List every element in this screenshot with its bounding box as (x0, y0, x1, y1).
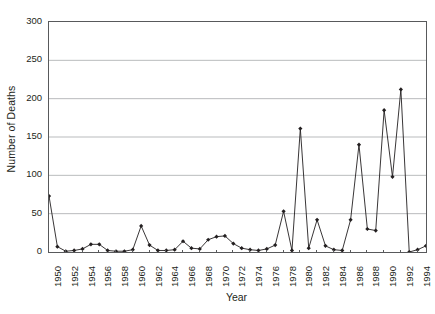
x-axis-tick-label: 1950 (52, 253, 64, 287)
x-axis-tick-mark (299, 250, 300, 253)
y-axis-tick-label: 200 (16, 93, 42, 103)
x-axis-tick-mark (48, 250, 49, 253)
x-axis-tick-label: 1990 (387, 253, 399, 287)
x-axis-tick-mark (216, 250, 217, 253)
x-axis-tick-labels: 1950195219541956195819601962196419661968… (48, 253, 427, 293)
data-point-marker (55, 245, 59, 249)
y-axis-tick-label: 0 (16, 246, 42, 256)
x-axis-tick-mark (82, 250, 83, 253)
x-axis-tick-label: 1994 (421, 253, 433, 287)
x-axis-tick-label: 1956 (102, 253, 114, 287)
x-axis-tick-mark (366, 250, 367, 253)
data-point-marker (298, 126, 302, 130)
x-axis-tick-label: 1976 (270, 253, 282, 287)
x-axis-tick-label: 1980 (303, 253, 315, 287)
data-point-marker (323, 244, 327, 248)
x-axis-tick-mark (149, 250, 150, 253)
x-axis-tick-label: 1968 (203, 253, 215, 287)
x-axis-tick-label: 1982 (320, 253, 332, 287)
data-point-marker (357, 143, 361, 147)
data-point-marker (382, 108, 386, 112)
data-point-marker (340, 248, 344, 252)
x-axis-tick-mark (98, 250, 99, 253)
x-axis-tick-mark (417, 250, 418, 253)
data-point-marker (315, 218, 319, 222)
x-axis-tick-label: 1974 (253, 253, 265, 287)
y-axis-tick-label: 50 (16, 208, 42, 218)
x-axis-tick-label: 1972 (236, 253, 248, 287)
x-axis-tick-label: 1984 (337, 253, 349, 287)
data-point-marker (307, 246, 311, 250)
data-point-marker (240, 246, 244, 250)
x-axis-tick-label: 1970 (220, 253, 232, 287)
x-axis-tick-label: 1966 (186, 253, 198, 287)
x-axis-tick-mark (165, 250, 166, 253)
x-axis-tick-mark (400, 250, 401, 253)
data-line (49, 89, 426, 252)
x-axis-tick-label: 1988 (370, 253, 382, 287)
gridlines (49, 60, 426, 213)
data-point-marker (399, 87, 403, 91)
x-axis-tick-mark (132, 250, 133, 253)
x-axis-tick-label: 1962 (153, 253, 165, 287)
data-point-marker (72, 248, 76, 252)
data-markers (49, 87, 426, 252)
x-axis-tick-mark (383, 250, 384, 253)
data-point-marker (407, 250, 411, 252)
data-point-marker (214, 235, 218, 239)
data-point-marker (374, 228, 378, 232)
x-axis-title: Year (48, 291, 425, 303)
data-point-marker (365, 227, 369, 231)
data-point-marker (156, 248, 160, 252)
x-axis-tick-mark (115, 250, 116, 253)
data-point-marker (424, 244, 426, 248)
x-axis-tick-label: 1952 (69, 253, 81, 287)
x-axis-tick-mark (333, 250, 334, 253)
x-axis-tick-mark (316, 250, 317, 253)
data-point-marker (281, 209, 285, 213)
plot-svg (49, 22, 426, 252)
data-point-marker (273, 243, 277, 247)
line-chart: Number of Deaths 050100150200250300 1950… (0, 0, 435, 314)
x-axis-tick-label: 1964 (169, 253, 181, 287)
x-axis-tick-mark (266, 250, 267, 253)
y-axis-tick-label: 250 (16, 54, 42, 64)
x-axis-tick-mark (249, 250, 250, 253)
y-axis-tick-label: 150 (16, 131, 42, 141)
x-axis-tick-mark (182, 250, 183, 253)
x-axis-tick-mark (232, 250, 233, 253)
y-axis-tick-labels: 050100150200250300 (12, 0, 42, 314)
x-axis-tick-label: 1960 (136, 253, 148, 287)
x-axis-tick-label: 1986 (354, 253, 366, 287)
x-axis-tick-label: 1958 (119, 253, 131, 287)
x-axis-tick-label: 1978 (287, 253, 299, 287)
plot-area (48, 21, 427, 253)
x-axis-tick-label: 1954 (86, 253, 98, 287)
y-axis-tick-label: 100 (16, 169, 42, 179)
data-point-marker (349, 218, 353, 222)
y-axis-tick-label: 300 (16, 16, 42, 26)
x-axis-tick-mark (283, 250, 284, 253)
x-axis-tick-mark (350, 250, 351, 253)
data-point-marker (139, 224, 143, 228)
x-axis-tick-mark (65, 250, 66, 253)
data-point-marker (256, 248, 260, 252)
x-axis-tick-label: 1992 (404, 253, 416, 287)
data-point-marker (290, 248, 294, 252)
x-axis-tick-mark (199, 250, 200, 253)
data-point-marker (49, 194, 51, 198)
data-point-marker (89, 242, 93, 246)
